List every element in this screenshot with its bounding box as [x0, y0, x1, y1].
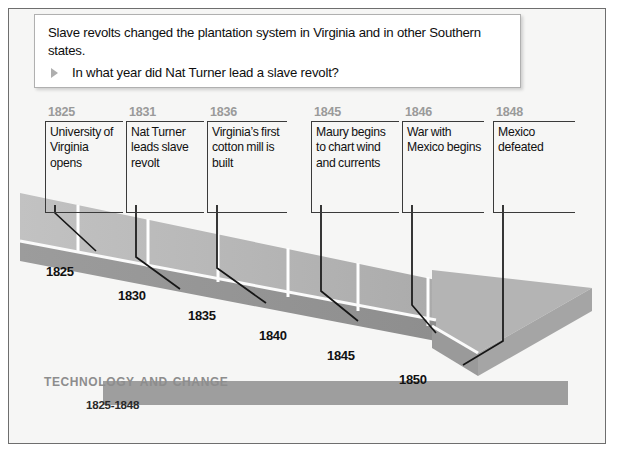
- callout-year: 1836: [207, 106, 287, 119]
- callout-1845: 1845 Maury begins to chart wind and curr…: [311, 106, 399, 213]
- panel-question: In what year did Nat Turner lead a slave…: [72, 64, 339, 81]
- timeline-caption: Technology and Change 1825-1848: [44, 371, 364, 411]
- callout-text: Maury begins to chart wind and currents: [316, 125, 397, 172]
- callout-1825: 1825 University of Virginia opens: [45, 106, 123, 213]
- callout-box: Maury begins to chart wind and currents: [311, 121, 399, 213]
- tick-label: 1835: [188, 308, 216, 323]
- timeline-title: Technology and Change: [44, 371, 364, 389]
- callout-box: University of Virginia opens: [45, 121, 123, 213]
- callout-text: Virginia’s first cotton mill is built: [212, 125, 285, 172]
- panel-question-row: In what year did Nat Turner lead a slave…: [48, 64, 508, 81]
- callout-year: 1845: [311, 106, 399, 119]
- question-panel: Slave revolts changed the plantation sys…: [34, 14, 521, 88]
- callout-box: Nat Turner leads slave revolt: [126, 121, 204, 213]
- timeline-subtitle: 1825-1848: [86, 399, 364, 411]
- timeline-diagram: 1825 1830 1835 1840 1845 1850 Technology…: [0, 0, 636, 465]
- callout-year: 1825: [45, 106, 123, 119]
- callout-text: War with Mexico begins: [407, 125, 482, 156]
- callout-1846: 1846 War with Mexico begins: [402, 106, 484, 213]
- callout-text: University of Virginia opens: [50, 125, 121, 172]
- callout-year: 1846: [402, 106, 484, 119]
- tick-label: 1825: [46, 264, 74, 279]
- tick-label: 1840: [259, 328, 287, 343]
- callout-year: 1848: [493, 106, 575, 119]
- tick-label: 1850: [399, 372, 427, 387]
- tick-label: 1845: [327, 348, 355, 363]
- tick-label: 1830: [118, 288, 146, 303]
- callout-year: 1831: [126, 106, 204, 119]
- callout-text: Nat Turner leads slave revolt: [131, 125, 202, 172]
- callout-box: War with Mexico begins: [402, 121, 484, 213]
- callout-box: Mexico defeated: [493, 121, 575, 213]
- callout-box: Virginia’s first cotton mill is built: [207, 121, 287, 213]
- triangle-right-icon: [51, 68, 58, 78]
- callout-text: Mexico defeated: [498, 125, 573, 156]
- callout-1831: 1831 Nat Turner leads slave revolt: [126, 106, 204, 213]
- panel-statement: Slave revolts changed the plantation sys…: [48, 24, 508, 59]
- callout-1836: 1836 Virginia’s first cotton mill is bui…: [207, 106, 287, 213]
- callout-1848: 1848 Mexico defeated: [493, 106, 575, 213]
